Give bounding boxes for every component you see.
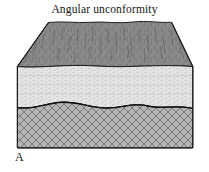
top-surface-unit: [17, 21, 192, 67]
upper-sedimentary-face: [17, 65, 192, 108]
lower-tilted-face: [17, 102, 192, 148]
figure-root: Angular unconformity: [0, 0, 209, 172]
top-surface-face: [17, 21, 192, 67]
lower-tilted-unit: [17, 102, 192, 148]
panel-label: A: [15, 150, 24, 165]
block-diagram: [0, 0, 209, 172]
upper-sedimentary-unit: [17, 65, 192, 108]
